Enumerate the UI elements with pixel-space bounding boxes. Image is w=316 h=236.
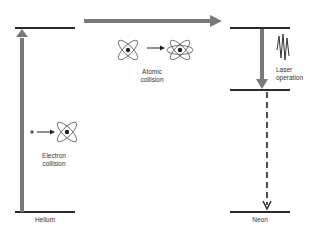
neon-label: Neon <box>245 216 275 224</box>
atom-icon-left <box>116 38 141 63</box>
electron-collision-label: Electron collision <box>34 152 74 168</box>
laser-operation-line1: Laser <box>276 66 316 74</box>
electron-collision-line1: Electron <box>34 152 74 160</box>
helium-excitation-arrow <box>16 29 28 212</box>
decay-dashed-arrow <box>263 92 271 209</box>
atomic-collision-arrow <box>147 46 165 51</box>
electron-collision-line2: collision <box>34 160 74 168</box>
electron-dot <box>30 130 33 133</box>
laser-operation-label: Laser operation <box>276 66 316 82</box>
laser-transition-arrow <box>256 29 268 89</box>
atomic-collision-line1: Atomic <box>132 68 172 76</box>
energy-level-diagram <box>0 0 316 236</box>
atom-icon-right <box>167 38 193 63</box>
electron-collision-arrow <box>37 130 55 135</box>
atomic-collision-label: Atomic collision <box>132 68 172 84</box>
laser-wave-icon <box>277 34 289 60</box>
helium-label: Helium <box>30 216 60 224</box>
atomic-collision-line2: collision <box>132 76 172 84</box>
atomic-transfer-arrow <box>84 15 222 27</box>
helium-atom-icon <box>55 120 80 145</box>
laser-operation-line2: operation <box>276 74 316 82</box>
